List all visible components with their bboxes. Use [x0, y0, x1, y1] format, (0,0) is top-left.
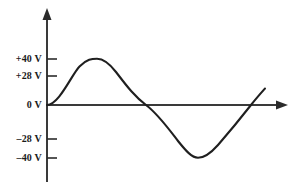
sine-waveform-figure: +40 V +28 V 0 V –28 V –40 V [0, 0, 297, 191]
x-axis-arrowhead-icon [276, 101, 288, 110]
y-axis-label-minus28: –28 V [4, 134, 42, 144]
y-axis-label-plus40: +40 V [4, 54, 42, 64]
y-axis-arrowhead-icon [43, 8, 52, 20]
sine-curve [47, 59, 265, 158]
y-axis-label-minus40: –40 V [4, 153, 42, 163]
y-axis-label-zero: 0 V [4, 100, 42, 110]
y-axis-label-plus28: +28 V [4, 71, 42, 81]
waveform-plot [0, 0, 297, 191]
